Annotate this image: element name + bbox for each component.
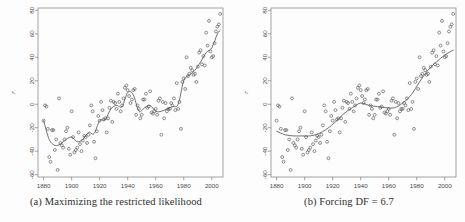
data-point <box>101 109 104 112</box>
data-point <box>435 55 438 58</box>
data-point <box>164 102 167 105</box>
panel-b: 1880190019201940196019802000-60-40-20020… <box>233 0 465 222</box>
data-point <box>373 113 376 116</box>
data-point <box>48 156 51 159</box>
data-point <box>65 130 68 133</box>
y-tick-label: 0 <box>29 102 36 106</box>
data-point <box>418 56 421 59</box>
data-point <box>302 153 305 156</box>
data-point <box>77 131 80 134</box>
data-point <box>421 72 424 75</box>
data-point <box>413 127 416 130</box>
data-point <box>313 150 316 153</box>
data-point <box>355 97 358 100</box>
data-point <box>393 133 396 136</box>
y-tick-label: 60 <box>29 30 36 37</box>
data-point <box>86 142 89 145</box>
data-point <box>396 117 399 120</box>
data-point <box>282 160 285 163</box>
data-point <box>391 97 394 100</box>
data-point <box>205 31 208 34</box>
data-point <box>288 138 291 141</box>
data-point <box>80 150 83 153</box>
data-point <box>432 49 435 52</box>
data-point <box>368 113 371 116</box>
panel-b-caption: (b) Forcing DF = 6.7 <box>233 196 465 207</box>
data-point <box>359 89 362 92</box>
fitted-curve <box>277 50 454 136</box>
data-point <box>90 104 93 107</box>
data-point <box>415 77 418 80</box>
data-point <box>410 107 413 110</box>
data-point <box>161 100 164 103</box>
data-point <box>201 63 204 66</box>
x-tick-label: 1980 <box>177 182 191 189</box>
y-tick-label: 80 <box>29 6 36 13</box>
data-point <box>372 117 375 120</box>
data-point <box>76 146 79 149</box>
data-point <box>358 84 361 87</box>
x-tick-label: 2000 <box>205 182 219 189</box>
plot-frame <box>38 8 223 177</box>
data-point <box>289 169 292 172</box>
data-point <box>93 140 96 143</box>
data-point <box>319 142 322 145</box>
data-point <box>351 100 354 103</box>
data-point <box>452 12 455 15</box>
data-point <box>55 138 58 141</box>
y-tick-label: 0 <box>262 102 269 106</box>
data-point <box>382 90 385 93</box>
data-point <box>450 23 453 26</box>
data-point <box>441 19 444 22</box>
data-point <box>174 109 177 112</box>
data-point <box>111 120 114 123</box>
data-point <box>126 89 129 92</box>
data-point <box>342 99 345 102</box>
data-point <box>58 97 61 100</box>
data-point <box>173 97 176 100</box>
data-point <box>206 44 209 47</box>
data-point <box>46 127 49 130</box>
data-point <box>94 157 97 160</box>
data-point <box>428 80 431 83</box>
y-tick-label: 40 <box>262 53 269 60</box>
data-point <box>394 100 397 103</box>
data-point <box>370 107 373 110</box>
x-tick-label: 1880 <box>270 182 284 189</box>
data-point <box>436 64 439 67</box>
x-tick-label: 1920 <box>93 182 107 189</box>
data-point <box>107 117 110 120</box>
x-tick-label: 1880 <box>37 182 51 189</box>
data-point <box>215 30 218 33</box>
data-point <box>417 88 420 91</box>
fitted-curve <box>44 30 221 145</box>
data-point <box>295 146 298 149</box>
data-point <box>70 110 73 113</box>
data-point <box>209 50 212 53</box>
data-point <box>115 107 118 110</box>
data-point <box>163 117 166 120</box>
data-point <box>361 95 364 98</box>
y-tick-label: 40 <box>29 53 36 60</box>
data-point <box>324 110 327 113</box>
figure-container: 1880190019201940196019802000-60-40-20020… <box>0 0 465 222</box>
panel-a: 1880190019201940196019802000-60-40-20020… <box>0 0 232 222</box>
data-point <box>327 157 330 160</box>
data-point <box>108 106 111 109</box>
data-point <box>109 99 112 102</box>
data-point <box>424 69 427 72</box>
x-tick-label: 1900 <box>298 182 312 189</box>
data-point <box>377 92 380 95</box>
data-point <box>87 133 90 136</box>
data-point <box>323 104 326 107</box>
data-point <box>49 160 52 163</box>
data-point <box>349 92 352 95</box>
y-axis-title: r <box>9 91 16 94</box>
y-tick-label: -40 <box>262 146 269 156</box>
data-point <box>79 143 82 146</box>
data-point <box>296 138 299 141</box>
x-tick-label: 1940 <box>354 182 368 189</box>
data-point <box>156 113 159 116</box>
data-point <box>97 115 100 118</box>
data-point <box>439 44 442 47</box>
